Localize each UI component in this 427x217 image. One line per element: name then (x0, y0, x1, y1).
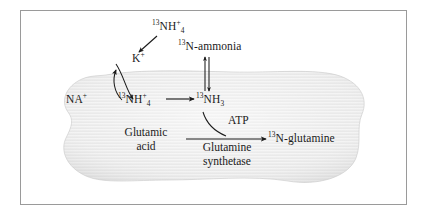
glutamic-acid-line-2: acid (108, 140, 184, 154)
species-base: NH (160, 20, 177, 32)
count-subscript: 4 (147, 99, 151, 108)
species-base: N-ammonia (186, 40, 242, 52)
label-potassium: K+ (132, 52, 145, 64)
label-ammonia-species: 13NH3 (196, 93, 224, 105)
enzyme-line-2: synthetase (186, 155, 268, 169)
label-glutamine-synthetase: Glutamine synthetase (186, 141, 268, 168)
figure-canvas: 13NH+4 K+ 13N-ammonia NA+ 13NH+4 13NH3 A… (0, 0, 427, 217)
label-atp: ATP (228, 114, 249, 126)
isotope-superscript: 13 (196, 91, 204, 100)
count-subscript: 4 (181, 26, 185, 35)
label-ammonium-extracellular: 13NH+4 (152, 20, 184, 32)
species-base: NH (126, 93, 143, 105)
isotope-superscript: 13 (268, 130, 276, 139)
count-subscript: 3 (220, 99, 224, 108)
label-sodium: NA+ (66, 93, 87, 105)
enzyme-line-1: Glutamine (186, 141, 268, 155)
label-glutamine-product: 13N-glutamine (268, 132, 335, 144)
species-base: NA (66, 93, 83, 105)
label-glutamic-acid: Glutamic acid (108, 126, 184, 153)
label-ammonium-intracellular: 13NH+4 (118, 93, 150, 105)
pathway-diagram (0, 0, 427, 217)
species-base: NH (204, 93, 221, 105)
isotope-superscript: 13 (178, 38, 186, 47)
charge-superscript: + (83, 91, 87, 100)
label-ammonia: 13N-ammonia (178, 40, 241, 52)
isotope-superscript: 13 (118, 91, 126, 100)
isotope-superscript: 13 (152, 18, 160, 27)
charge-superscript: + (140, 50, 144, 59)
species-base: N-glutamine (276, 132, 335, 144)
glutamic-acid-line-1: Glutamic (108, 126, 184, 140)
